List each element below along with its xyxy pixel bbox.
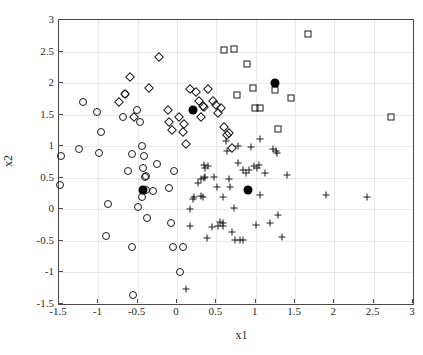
data-point-diamond — [222, 130, 232, 140]
y-tick-label: 0 — [49, 203, 55, 214]
data-point-circle — [179, 243, 187, 251]
x-tick-label: 2 — [331, 306, 337, 317]
y-tick-mark — [59, 177, 63, 178]
data-point-diamond — [114, 97, 124, 107]
data-point-circle — [102, 232, 110, 240]
data-point-diamond — [164, 117, 174, 127]
x-tick-mark — [333, 299, 334, 303]
data-point-filled-circle — [243, 185, 252, 194]
x-tick-mark — [412, 299, 413, 303]
y-tick-mark — [59, 271, 63, 272]
data-point-diamond — [179, 119, 189, 129]
data-point-plus — [220, 222, 227, 229]
x-tick-label: -0.5 — [128, 306, 145, 317]
gridline-vertical — [256, 20, 257, 304]
data-point-square — [221, 47, 228, 54]
data-point-plus — [202, 164, 209, 171]
gridline-vertical — [295, 20, 296, 304]
data-point-plus — [274, 212, 281, 219]
data-point-plus — [197, 176, 204, 183]
data-point-plus — [235, 159, 242, 166]
data-point-diamond — [227, 143, 237, 153]
data-point-plus — [187, 222, 194, 229]
data-point-plus — [224, 148, 231, 155]
data-point-circle — [56, 181, 64, 189]
data-point-diamond — [204, 84, 214, 94]
data-point-diamond — [120, 90, 130, 100]
data-point-plus — [189, 196, 196, 203]
scatter-plot-figure: -1.5-1-0.500.511.522.53-1.5-1-0.500.511.… — [0, 0, 423, 355]
data-point-plus — [236, 236, 243, 243]
gridline-horizontal — [59, 115, 413, 116]
y-tick-label: 2.5 — [40, 45, 54, 56]
data-point-plus — [232, 236, 239, 243]
data-point-plus — [266, 219, 273, 226]
plot-area — [58, 19, 414, 305]
data-point-circle — [79, 98, 87, 106]
gridline-vertical — [334, 20, 335, 304]
data-point-diamond — [213, 108, 223, 118]
data-point-plus — [208, 224, 215, 231]
gridline-vertical — [177, 20, 178, 304]
gridline-vertical — [138, 20, 139, 304]
x-axis-label: x1 — [0, 328, 423, 343]
data-point-plus — [227, 183, 234, 190]
data-point-plus — [217, 218, 224, 225]
data-point-circle — [139, 164, 147, 172]
data-point-plus — [262, 169, 269, 176]
data-point-circle — [167, 219, 175, 227]
x-tick-mark — [97, 299, 98, 303]
data-point-plus — [229, 229, 236, 236]
x-tick-label: 2.5 — [366, 306, 380, 317]
y-tick-mark — [59, 19, 63, 20]
gridline-horizontal — [59, 83, 413, 84]
x-tick-label: 1 — [252, 306, 258, 317]
data-point-square — [274, 125, 281, 132]
data-point-plus — [278, 234, 285, 241]
data-point-diamond — [167, 125, 177, 135]
data-point-diamond — [125, 72, 135, 82]
y-tick-label: 1 — [49, 140, 55, 151]
data-point-plus — [205, 163, 212, 170]
data-point-filled-circle — [188, 105, 197, 114]
gridline-horizontal — [59, 209, 413, 210]
data-point-diamond — [219, 122, 229, 132]
data-point-plus — [195, 180, 202, 187]
gridline-horizontal — [59, 146, 413, 147]
x-tick-mark — [373, 299, 374, 303]
y-tick-label: -0.5 — [37, 234, 54, 245]
data-point-circle — [138, 193, 146, 201]
data-point-filled-circle — [139, 185, 148, 194]
data-point-circle — [165, 184, 173, 192]
y-tick-mark — [59, 208, 63, 209]
data-point-plus — [323, 192, 330, 199]
y-tick-mark — [59, 145, 63, 146]
y-tick-mark — [59, 82, 63, 83]
data-point-square — [233, 92, 240, 99]
data-point-plus — [257, 135, 264, 142]
x-tick-label: -1 — [93, 306, 102, 317]
data-point-circle — [104, 200, 112, 208]
gridline-horizontal — [59, 52, 413, 53]
x-tick-mark — [255, 299, 256, 303]
data-point-diamond — [216, 103, 226, 113]
data-point-diamond — [191, 87, 201, 97]
data-point-circle — [140, 152, 148, 160]
x-tick-mark — [215, 299, 216, 303]
x-tick-label: 0.5 — [208, 306, 222, 317]
y-tick-label: 0.5 — [40, 171, 54, 182]
data-point-plus — [243, 169, 250, 176]
data-point-plus — [220, 194, 227, 201]
y-tick-label: 2 — [49, 77, 55, 88]
data-point-plus — [225, 176, 232, 183]
data-point-plus — [200, 162, 207, 169]
gridline-horizontal — [59, 272, 413, 273]
gridline-vertical — [374, 20, 375, 304]
data-point-diamond — [196, 112, 206, 122]
x-tick-label: 0 — [173, 306, 179, 317]
y-tick-mark — [59, 114, 63, 115]
data-point-plus — [191, 194, 198, 201]
data-point-circle — [142, 186, 150, 194]
data-point-diamond — [163, 105, 173, 115]
data-point-square — [244, 60, 251, 67]
